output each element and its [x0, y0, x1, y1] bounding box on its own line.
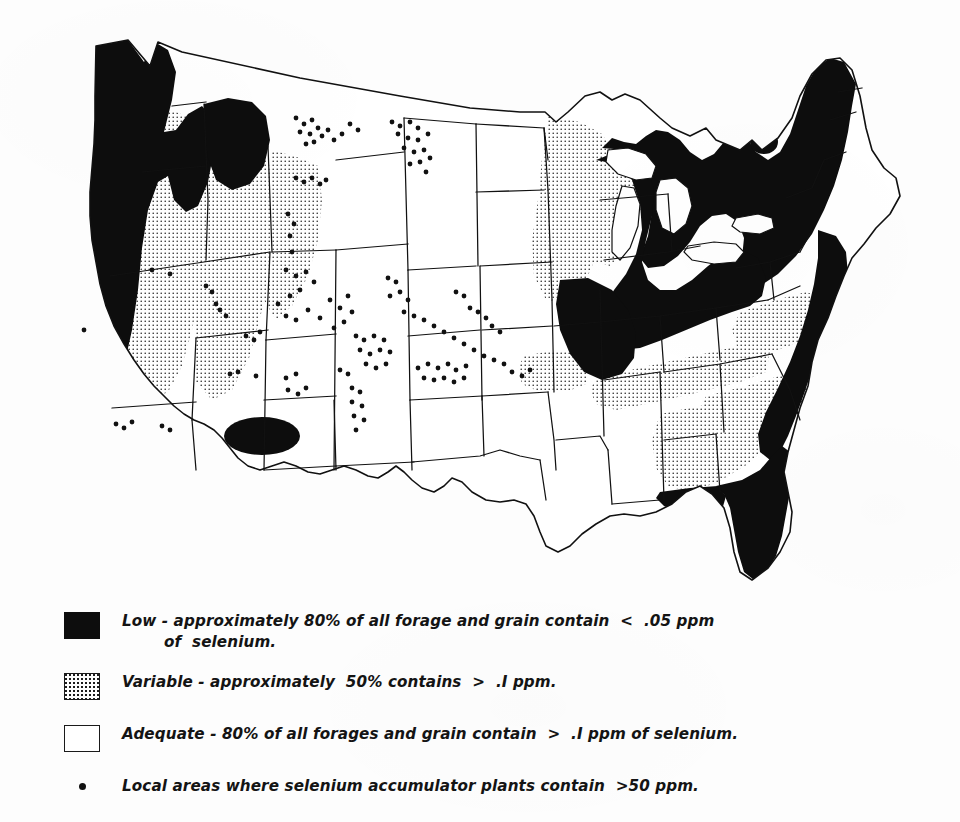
solid-black-swatch-icon [64, 612, 100, 639]
white-swatch-icon [64, 725, 100, 752]
legend-row-accumulator[interactable]: Local areas where selenium accumulator p… [64, 776, 699, 797]
legend-low-line2: of selenium. [122, 632, 714, 653]
stippled-swatch-icon [64, 673, 100, 700]
region-low-california-bay [50, 284, 78, 314]
legend-low-text: Low - approximately 80% of all forage an… [122, 611, 714, 653]
map-legend: Low - approximately 80% of all forage an… [0, 600, 960, 822]
legend-accumulator-line1: Local areas where selenium accumulator p… [122, 777, 699, 795]
legend-adequate-text: Adequate - 80% of all forages and grain … [122, 724, 738, 745]
figure-page: Low - approximately 80% of all forage an… [0, 0, 960, 822]
legend-row-low[interactable]: Low - approximately 80% of all forage an… [64, 611, 714, 653]
us-selenium-map [0, 0, 960, 600]
legend-variable-line1: Variable - approximately 50% contains > … [122, 673, 557, 691]
legend-variable-text: Variable - approximately 50% contains > … [122, 672, 557, 693]
legend-accumulator-text: Local areas where selenium accumulator p… [122, 776, 699, 797]
map-svg [0, 0, 960, 600]
legend-adequate-line1: Adequate - 80% of all forages and grain … [122, 725, 738, 743]
black-dot-swatch-holder [64, 776, 100, 796]
legend-row-adequate[interactable]: Adequate - 80% of all forages and grain … [64, 724, 738, 752]
accumulator-dot-icon [79, 783, 86, 790]
legend-row-variable[interactable]: Variable - approximately 50% contains > … [64, 672, 557, 700]
lake-ontario [732, 214, 774, 234]
region-low-arizona-newmexico-spot [224, 417, 300, 455]
legend-low-line1: Low - approximately 80% of all forage an… [122, 612, 714, 630]
lake-erie [684, 242, 744, 264]
